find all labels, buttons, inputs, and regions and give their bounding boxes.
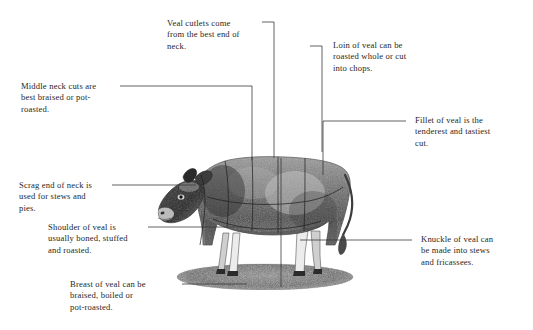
leader-loin bbox=[310, 46, 322, 152]
veal-cuts-figure: Veal cutlets come from the best end of n… bbox=[0, 0, 533, 330]
calf-body bbox=[185, 150, 365, 250]
ground-shadow bbox=[175, 263, 355, 290]
callout-knuckle: Knuckle of veal can be made into stews a… bbox=[421, 234, 527, 268]
callout-loin: Loin of veal can be roasted whole or cut… bbox=[333, 40, 438, 74]
callout-scrag-end: Scrag end of neck is used for stews and … bbox=[19, 180, 119, 214]
callout-middle-neck: Middle neck cuts are best braised or pot… bbox=[21, 81, 126, 115]
callout-breast: Breast of veal can be braised, boiled or… bbox=[70, 279, 178, 313]
callout-shoulder: Shoulder of veal is usually boned, stuff… bbox=[48, 222, 152, 256]
callout-fillet: Fillet of veal is the tenderest and tast… bbox=[415, 115, 527, 149]
calf-illustration bbox=[145, 145, 390, 290]
callout-veal-cutlets: Veal cutlets come from the best end of n… bbox=[167, 18, 272, 52]
